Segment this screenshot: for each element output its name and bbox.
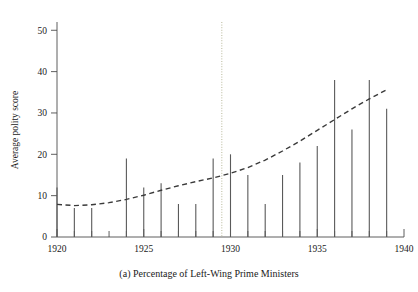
chart-figure: 01020304050 Average polity score 1920192… (0, 0, 418, 292)
y-tick-label: 0 (42, 232, 47, 242)
x-tick-label: 1930 (221, 244, 240, 254)
polity-score-bar-chart: 01020304050 Average polity score 1920192… (0, 0, 418, 292)
x-tick-label: 1920 (48, 244, 67, 254)
y-tick-label: 20 (38, 150, 48, 160)
figure-caption: (a) Percentage of Left-Wing Prime Minist… (119, 268, 298, 280)
y-tick-label: 30 (38, 108, 48, 118)
y-tick-label: 40 (38, 67, 48, 77)
x-tick-label: 1940 (395, 244, 414, 254)
x-tick-label: 1935 (308, 244, 327, 254)
y-tick-label: 50 (38, 26, 48, 36)
y-axis-title: Average polity score (10, 91, 20, 169)
y-tick-label: 10 (38, 191, 48, 201)
x-tick-label: 1925 (134, 244, 153, 254)
